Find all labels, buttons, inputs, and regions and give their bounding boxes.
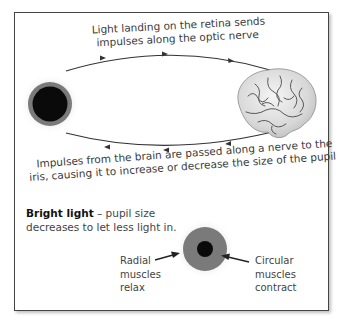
label-line: Radial	[120, 254, 161, 268]
label-line: muscles	[120, 268, 161, 282]
caption-title: Bright light	[26, 207, 94, 219]
bright-light-caption: Bright light – pupil size decreases to l…	[26, 206, 177, 234]
caption-line2: decreases to let less light in.	[26, 220, 177, 234]
caption-rest: – pupil size	[94, 207, 155, 219]
radial-muscles-label: Radial muscles relax	[120, 254, 161, 295]
brain-icon	[238, 69, 316, 138]
eye-icon	[20, 74, 80, 134]
optic-nerve-arc	[66, 52, 270, 72]
label-line: Circular	[255, 254, 297, 268]
label-line: muscles	[255, 268, 297, 282]
label-line: contract	[255, 281, 297, 295]
circular-muscles-label: Circular muscles contract	[255, 254, 297, 295]
bright-light-eye-icon	[175, 219, 235, 279]
label-line: relax	[120, 281, 161, 295]
